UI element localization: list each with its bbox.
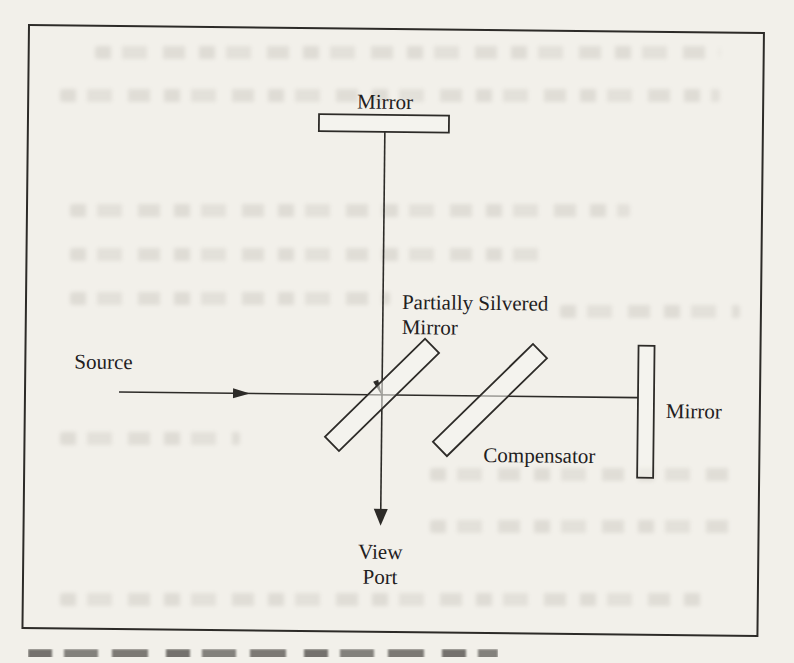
scanned-page: Mirror Partially Silvered Mirror Source … xyxy=(0,0,794,663)
label-right-mirror: Mirror xyxy=(666,399,722,424)
viewport-arrowhead xyxy=(374,509,388,526)
label-view-port-line2: Port xyxy=(362,565,397,589)
interferometer-diagram: Mirror Partially Silvered Mirror Source … xyxy=(23,26,762,635)
label-top-mirror: Mirror xyxy=(357,90,413,115)
compensator-rect xyxy=(433,344,547,456)
top-mirror-rect xyxy=(319,114,449,132)
label-compensator: Compensator xyxy=(483,443,595,468)
vertical-beam-line xyxy=(381,132,385,518)
right-mirror-rect xyxy=(637,346,654,478)
cropped-caption-fragment xyxy=(28,649,498,661)
label-partially-silvered-line2: Mirror xyxy=(402,315,458,340)
label-partially-silvered-line1: Partially Silvered xyxy=(402,290,549,316)
source-beam-arrowhead xyxy=(233,388,250,398)
figure-frame: Mirror Partially Silvered Mirror Source … xyxy=(21,24,765,637)
label-view-port-line1: View xyxy=(358,540,403,564)
label-source: Source xyxy=(74,350,133,375)
